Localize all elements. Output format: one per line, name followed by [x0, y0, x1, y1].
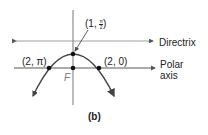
polar-axis-label-1: Polar: [160, 60, 183, 70]
right-point-label: (2, 0): [104, 57, 127, 67]
vertex-point: [71, 52, 76, 57]
figure-caption: (b): [88, 111, 101, 122]
polar-axis-label-2: axis: [160, 71, 178, 81]
left-point: [47, 66, 52, 71]
focus-label: F: [64, 72, 70, 83]
directrix-label: Directrix: [159, 38, 196, 48]
vertex-pointer-arrow: [75, 30, 88, 51]
right-point: [97, 66, 102, 71]
vertex-label: (1, π2): [85, 19, 106, 30]
left-point-label: (2, π): [22, 57, 47, 67]
focus-point: [71, 66, 76, 71]
